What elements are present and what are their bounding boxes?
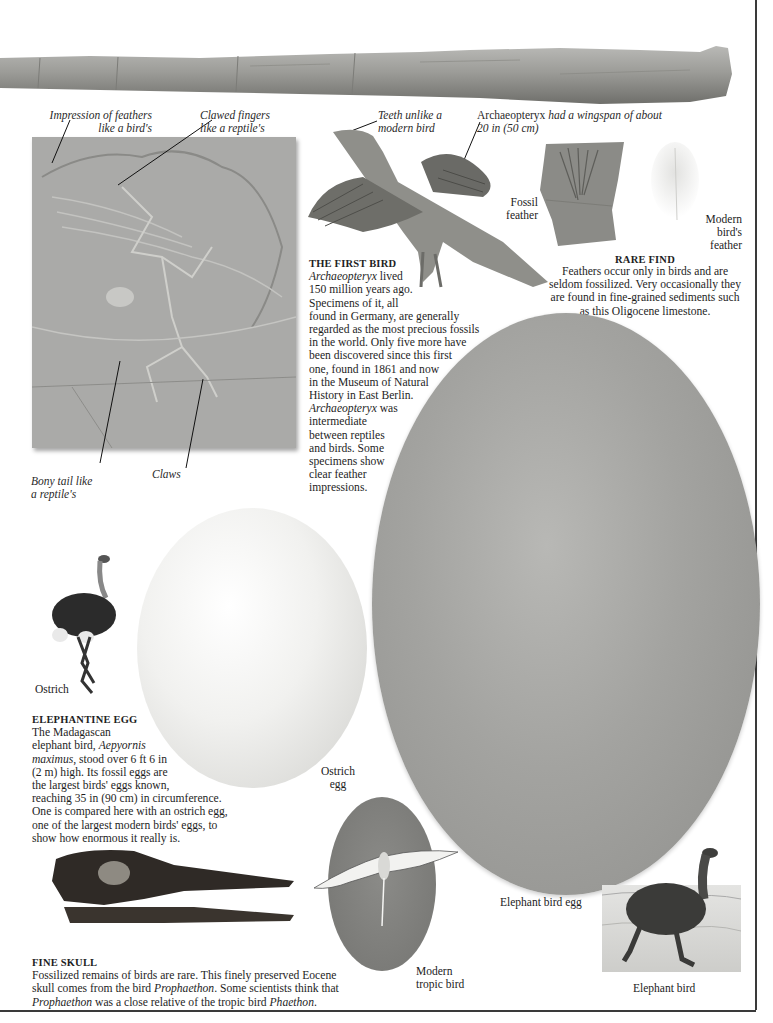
fine-skull-body: Fossilized remains of birds are rare. Th… bbox=[32, 969, 402, 1009]
text-run: in the Museum of Natural bbox=[309, 376, 429, 389]
text-run: . bbox=[314, 996, 317, 1009]
label-line: feather bbox=[502, 209, 538, 222]
callout-feather-impressions: Impression of feathers like a bird's bbox=[34, 109, 152, 135]
text-run: . Some scientists think that bbox=[214, 982, 339, 995]
rare-find-line: Feathers occur only in birds and are bbox=[540, 265, 750, 278]
text-line: (2 m) high. Its fossil eggs are bbox=[32, 766, 332, 779]
text-run: (2 m) high. Its fossil eggs are bbox=[32, 766, 168, 779]
fossil-feather-label: Fossil feather bbox=[502, 196, 538, 222]
text-run: clear feather bbox=[309, 468, 367, 481]
rare-find-body: Feathers occur only in birds and are sel… bbox=[540, 265, 750, 318]
fossil-feather-image bbox=[538, 140, 628, 248]
text-run: , stood over 6 ft 6 in bbox=[73, 753, 167, 766]
text-run: Fossilized remains of birds are rare. Th… bbox=[32, 969, 336, 982]
wingspan-text: had a wingspan of about bbox=[545, 109, 662, 121]
italic-term: Prophaethon bbox=[154, 982, 214, 995]
text-line: The Madagascan bbox=[32, 726, 332, 739]
text-line: 150 million years ago. bbox=[309, 283, 509, 296]
text-line: found in Germany, are generally bbox=[309, 310, 509, 323]
italic-term: Aepyornis bbox=[99, 739, 146, 752]
elephantine-egg-body: The Madagascanelephant bird, Aepyornisma… bbox=[32, 726, 332, 845]
label-line: Modern bbox=[690, 213, 742, 226]
italic-term: Archaeopteryx bbox=[309, 402, 377, 415]
text-run: 150 million years ago. bbox=[309, 283, 413, 296]
elephantine-egg-text-block: ELEPHANTINE EGG The Madagascanelephant b… bbox=[32, 713, 332, 845]
text-run: show how enormous it really is. bbox=[32, 832, 180, 845]
italic-term: maximus bbox=[32, 753, 73, 766]
text-run: The Madagascan bbox=[32, 726, 111, 739]
callout-line: modern bird bbox=[378, 122, 478, 135]
text-run: specimens show bbox=[309, 455, 385, 468]
callout-clawed-fingers: Clawed fingers like a reptile's bbox=[200, 109, 290, 135]
text-run: one of the largest modern birds' eggs, t… bbox=[32, 819, 217, 832]
text-line: elephant bird, Aepyornis bbox=[32, 739, 332, 752]
italic-term: Archaeopteryx bbox=[309, 270, 377, 283]
text-line: skull comes from the bird Prophaethon. S… bbox=[32, 982, 402, 995]
text-run: one, found in 1861 and now bbox=[309, 363, 439, 376]
text-run: in the world. Only five more have bbox=[309, 336, 466, 349]
text-run: lived bbox=[377, 270, 403, 283]
callout-claws: Claws bbox=[152, 468, 181, 481]
callout-line: like a reptile's bbox=[200, 122, 290, 135]
rare-find-line: seldom fossilized. Very occasionally the… bbox=[540, 278, 750, 291]
wingspan-value: 20 in (50 cm) bbox=[477, 122, 737, 135]
label-line: bird's bbox=[690, 226, 742, 239]
italic-term: Prophaethon bbox=[32, 996, 92, 1009]
callout-line: a reptile's bbox=[31, 488, 131, 501]
text-run: impressions. bbox=[309, 481, 367, 494]
tropic-bird-label: Modern tropic bird bbox=[416, 965, 464, 991]
elephant-bird-label: Elephant bird bbox=[633, 982, 695, 995]
text-run: Specimens of it, all bbox=[309, 297, 399, 310]
text-line: One is compared here with an ostrich egg… bbox=[32, 805, 332, 818]
callout-teeth: Teeth unlike a modern bird bbox=[378, 109, 478, 135]
callout-line: like a bird's bbox=[34, 122, 152, 135]
label-line: tropic bird bbox=[416, 978, 464, 991]
label-line: feather bbox=[690, 239, 742, 252]
elephant-bird-egg-label: Elephant bird egg bbox=[500, 896, 582, 909]
text-line: Prophaethon was a close relative of the … bbox=[32, 996, 402, 1009]
ostrich-label: Ostrich bbox=[35, 683, 69, 696]
text-run: between reptiles bbox=[309, 429, 385, 442]
first-bird-heading: THE FIRST BIRD bbox=[309, 257, 509, 270]
text-run: reaching 35 in (90 cm) in circumference. bbox=[32, 792, 222, 805]
text-run: and birds. Some bbox=[309, 442, 384, 455]
text-line: one of the largest modern birds' eggs, t… bbox=[32, 819, 332, 832]
callout-bony-tail: Bony tail like a reptile's bbox=[31, 475, 131, 501]
text-run: skull comes from the bird bbox=[32, 982, 154, 995]
modern-feather-label: Modern bird's feather bbox=[690, 213, 742, 252]
text-run: the largest birds' eggs known, bbox=[32, 779, 169, 792]
ostrich-image bbox=[48, 553, 120, 698]
callout-line: Clawed fingers bbox=[200, 109, 290, 122]
text-run: intermediate bbox=[309, 415, 367, 428]
prophaethon-skull-image bbox=[44, 845, 300, 925]
text-line: reaching 35 in (90 cm) in circumference. bbox=[32, 792, 332, 805]
italic-term: Phaethon bbox=[270, 996, 314, 1009]
text-line: maximus, stood over 6 ft 6 in bbox=[32, 753, 332, 766]
text-line: regarded as the most precious fossils bbox=[309, 323, 509, 336]
text-run: been discovered since this first bbox=[309, 349, 452, 362]
text-line: Specimens of it, all bbox=[309, 297, 509, 310]
elephant-bird-egg-image bbox=[372, 313, 760, 895]
text-line: Archaeopteryx lived bbox=[309, 270, 509, 283]
callout-line: Impression of feathers bbox=[34, 109, 152, 122]
text-line: show how enormous it really is. bbox=[32, 832, 332, 845]
text-run: was a close relative of the tropic bird bbox=[92, 996, 269, 1009]
text-run: was bbox=[377, 402, 398, 415]
fine-skull-text-block: FINE SKULL Fossilized remains of birds a… bbox=[32, 956, 402, 1009]
text-run: History in East Berlin. bbox=[309, 389, 413, 402]
elephant-bird-image bbox=[620, 847, 720, 972]
text-run: regarded as the most precious fossils bbox=[309, 323, 479, 336]
elephantine-egg-heading: ELEPHANTINE EGG bbox=[32, 713, 332, 726]
text-run: One is compared here with an ostrich egg… bbox=[32, 805, 228, 818]
callout-line: Teeth unlike a bbox=[378, 109, 478, 122]
text-run: found in Germany, are generally bbox=[309, 310, 459, 323]
text-line: Fossilized remains of birds are rare. Th… bbox=[32, 969, 402, 982]
callout-wingspan: Archaeopteryx had a wingspan of about 20… bbox=[477, 109, 737, 135]
wingspan-genus: Archaeopteryx bbox=[477, 109, 545, 121]
callout-line: Bony tail like bbox=[31, 475, 131, 488]
rare-find-line: are found in fine-grained sediments such bbox=[540, 291, 750, 304]
label-line: Modern bbox=[416, 965, 464, 978]
fine-skull-heading: FINE SKULL bbox=[32, 956, 402, 969]
label-line: Fossil bbox=[502, 196, 538, 209]
text-run: elephant bird, bbox=[32, 739, 99, 752]
